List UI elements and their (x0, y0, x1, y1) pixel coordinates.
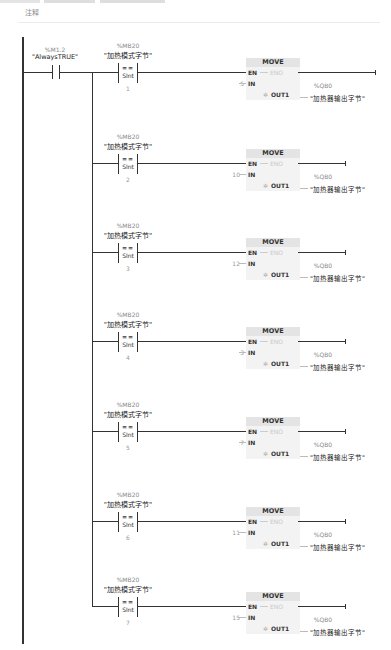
en-eno-link (260, 341, 268, 342)
cmp-symbol: "加热模式字节" (92, 230, 164, 240)
move-title: MOVE (246, 238, 300, 247)
out-symbol[interactable]: "加热器输出字节" (310, 627, 365, 637)
rung-wire-to-move (138, 341, 247, 342)
move-block[interactable]: MOVE EN ENO IN ✲ OUT1 (246, 238, 300, 280)
cmp-value[interactable]: 2 (118, 176, 138, 183)
cmp-symbol: "加热模式字节" (92, 50, 164, 60)
out-address: %QB0 (308, 441, 338, 448)
cmp-type: SInt (119, 252, 137, 260)
cmp-value[interactable]: 1 (118, 85, 138, 92)
in-wire (239, 174, 246, 175)
move-title: MOVE (246, 58, 300, 67)
in-wire (239, 83, 246, 84)
cmp-value[interactable]: 5 (118, 444, 138, 451)
out-symbol[interactable]: "加热器输出字节" (310, 542, 365, 552)
out1-pin: OUT1 (271, 91, 289, 98)
out1-pin: OUT1 (271, 625, 289, 632)
en-eno-link (260, 252, 268, 253)
compare-equal-contact[interactable]: == SInt (118, 154, 138, 174)
in-pin: IN (248, 260, 255, 267)
cmp-value[interactable]: 4 (118, 354, 138, 361)
out-star-icon: ✲ (263, 625, 268, 632)
in-pin: IN (248, 171, 255, 178)
eno-pin: ENO (270, 249, 283, 256)
in-value[interactable]: 10 (220, 171, 240, 178)
en-eno-link (260, 521, 268, 522)
out-wire (300, 188, 308, 189)
out-symbol[interactable]: "加热器输出字节" (310, 184, 365, 194)
in-pin: IN (248, 529, 255, 536)
cmp-value[interactable]: 3 (118, 265, 138, 272)
out1-pin: OUT1 (271, 540, 289, 547)
eno-wire (298, 341, 345, 342)
in-wire (239, 263, 246, 264)
cmp-value[interactable]: 6 (118, 534, 138, 541)
eno-end-tick (345, 519, 346, 524)
compare-equal-contact[interactable]: == SInt (118, 243, 138, 263)
out1-pin: OUT1 (271, 360, 289, 367)
network-comment[interactable]: 注释 (25, 7, 39, 17)
compare-equal-contact[interactable]: == SInt (118, 332, 138, 352)
out-wire (300, 546, 308, 547)
move-block[interactable]: MOVE EN ENO IN ✲ OUT1 (246, 58, 300, 100)
cmp-operator: == (119, 332, 137, 341)
compare-equal-contact[interactable]: == SInt (118, 597, 138, 617)
top-toolbar-strip (0, 0, 391, 3)
cmp-operator: == (119, 243, 137, 252)
eno-wire (298, 72, 375, 73)
in-value[interactable]: 11 (220, 529, 240, 536)
no-contact-always-true[interactable] (52, 65, 60, 79)
move-block[interactable]: MOVE EN ENO IN ✲ OUT1 (246, 149, 300, 191)
out-symbol[interactable]: "加热器输出字节" (310, 362, 365, 372)
out-star-icon: ✲ (263, 450, 268, 457)
cmp-address: %MB20 (104, 576, 152, 583)
eno-wire (298, 163, 345, 164)
rung-wire-to-move (138, 72, 247, 73)
eno-pin: ENO (270, 160, 283, 167)
out-symbol[interactable]: "加热器输出字节" (310, 93, 365, 103)
cmp-value[interactable]: 7 (118, 619, 138, 626)
eno-pin: ENO (270, 338, 283, 345)
cmp-address: %MB20 (104, 222, 152, 229)
cmp-address: %MB20 (104, 491, 152, 498)
out-star-icon: ✲ (263, 182, 268, 189)
eno-pin: ENO (270, 603, 283, 610)
out-symbol[interactable]: "加热器输出字节" (310, 273, 365, 283)
cmp-symbol: "加热模式字节" (92, 319, 164, 329)
compare-equal-contact[interactable]: == SInt (118, 422, 138, 442)
cmp-operator: == (119, 512, 137, 521)
cmp-operator: == (119, 154, 137, 163)
cmp-symbol: "加热模式字节" (92, 584, 164, 594)
move-block[interactable]: MOVE EN ENO IN ✲ OUT1 (246, 327, 300, 369)
branch-wire (92, 431, 120, 432)
move-title: MOVE (246, 327, 300, 336)
out-address: %QB0 (308, 173, 338, 180)
cmp-address: %MB20 (104, 311, 152, 318)
in-pin: IN (248, 349, 255, 356)
in-value[interactable]: 15 (220, 614, 240, 621)
out-wire (300, 366, 308, 367)
comment-divider (18, 22, 380, 23)
en-pin: EN (248, 603, 257, 610)
rung-wire-to-move (138, 606, 247, 607)
cmp-type: SInt (119, 163, 137, 171)
rung-wire-to-move (138, 163, 247, 164)
in-value[interactable]: 12 (220, 260, 240, 267)
move-block[interactable]: MOVE EN ENO IN ✲ OUT1 (246, 507, 300, 549)
eno-end-tick (345, 161, 346, 166)
left-power-rail (22, 37, 24, 644)
move-block[interactable]: MOVE EN ENO IN ✲ OUT1 (246, 417, 300, 459)
contact-address: %M1.2 (30, 46, 80, 53)
eno-wire (298, 252, 345, 253)
out-symbol[interactable]: "加热器输出字节" (310, 452, 365, 462)
eno-pin: ENO (270, 428, 283, 435)
in-pin: IN (248, 439, 255, 446)
rung-wire-to-move (138, 431, 247, 432)
compare-equal-contact[interactable]: == SInt (118, 512, 138, 532)
en-pin: EN (248, 69, 257, 76)
out1-pin: OUT1 (271, 182, 289, 189)
in-wire (239, 617, 246, 618)
compare-equal-contact[interactable]: == SInt (118, 63, 138, 83)
move-block[interactable]: MOVE EN ENO IN ✲ OUT1 (246, 592, 300, 634)
out-wire (300, 277, 308, 278)
